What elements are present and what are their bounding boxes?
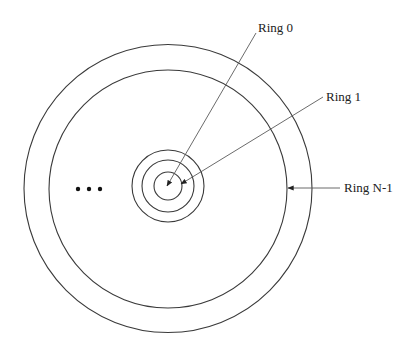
dot-icon [98,187,102,191]
ring0-leader-arrow [167,33,256,186]
ellipsis-dots [76,187,102,191]
large-inner-ring [49,70,287,308]
ring1-leader-arrow [181,97,323,184]
dot-icon [87,187,91,191]
dot-icon [76,187,80,191]
concentric-ring-diagram: Ring 0 Ring 1 Ring N-1 [0,0,408,351]
ringN1-label: Ring N-1 [344,180,393,195]
small-inner-ring [154,172,182,200]
large-outer-ring [24,45,312,333]
small-outer-ring [132,150,204,222]
ring0-label: Ring 0 [258,20,293,35]
ring1-label: Ring 1 [326,89,361,104]
small-middle-ring [142,160,194,212]
